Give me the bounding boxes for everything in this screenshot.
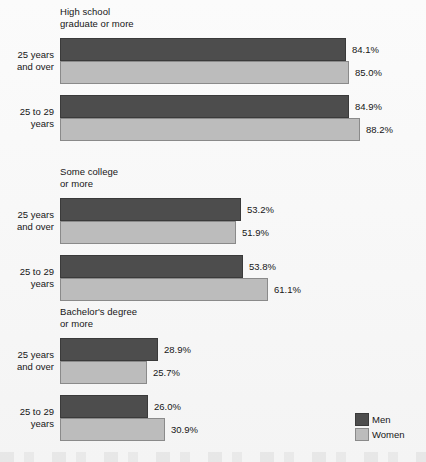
bar-chart: High school graduate or more25 years and… xyxy=(0,0,426,462)
bar-men xyxy=(60,255,243,278)
bar-value-label: 85.0% xyxy=(355,61,382,84)
category-label: 25 to 29 years xyxy=(0,406,54,429)
bar-rect xyxy=(60,418,165,441)
legend-label: Women xyxy=(372,427,405,442)
group-title: Bachelor's degree or more xyxy=(60,306,137,329)
group-title: High school graduate or more xyxy=(60,6,134,29)
bar-rect xyxy=(60,61,349,84)
category-label: 25 to 29 years xyxy=(0,106,54,129)
chart-legend: MenWomen xyxy=(355,412,421,442)
bar-rect xyxy=(60,38,346,61)
category-label: 25 years and over xyxy=(0,349,54,372)
bar-value-label: 28.9% xyxy=(164,338,191,361)
bar-value-label: 30.9% xyxy=(171,418,198,441)
category-label: 25 years and over xyxy=(0,49,54,72)
bar-rect xyxy=(60,95,349,118)
women-swatch xyxy=(355,428,369,441)
bar-rect xyxy=(60,221,236,244)
group-title: Some college or more xyxy=(60,166,118,189)
bar-rect xyxy=(60,338,158,361)
bar-men xyxy=(60,38,346,61)
bar-women xyxy=(60,278,268,301)
bar-value-label: 88.2% xyxy=(366,118,393,141)
bar-rect xyxy=(60,395,148,418)
bar-women xyxy=(60,361,147,384)
bar-women xyxy=(60,418,165,441)
bar-women xyxy=(60,61,349,84)
scan-page-artifact xyxy=(0,452,426,462)
bar-women xyxy=(60,118,360,141)
legend-item: Women xyxy=(355,427,421,442)
bar-rect xyxy=(60,198,241,221)
bar-value-label: 53.8% xyxy=(249,255,276,278)
bar-men xyxy=(60,95,349,118)
bar-rect xyxy=(60,361,147,384)
bar-men xyxy=(60,198,241,221)
bar-value-label: 25.7% xyxy=(153,361,180,384)
legend-label: Men xyxy=(372,412,390,427)
men-swatch xyxy=(355,413,369,426)
category-label: 25 years and over xyxy=(0,209,54,232)
bar-men xyxy=(60,395,148,418)
bar-value-label: 53.2% xyxy=(247,198,274,221)
bar-rect xyxy=(60,255,243,278)
bar-value-label: 51.9% xyxy=(242,221,269,244)
bar-women xyxy=(60,221,236,244)
category-label: 25 to 29 years xyxy=(0,266,54,289)
bar-men xyxy=(60,338,158,361)
legend-item: Men xyxy=(355,412,421,427)
bar-value-label: 61.1% xyxy=(274,278,301,301)
bar-rect xyxy=(60,278,268,301)
bar-value-label: 84.1% xyxy=(352,38,379,61)
bar-value-label: 26.0% xyxy=(154,395,181,418)
bar-value-label: 84.9% xyxy=(355,95,382,118)
bar-rect xyxy=(60,118,360,141)
